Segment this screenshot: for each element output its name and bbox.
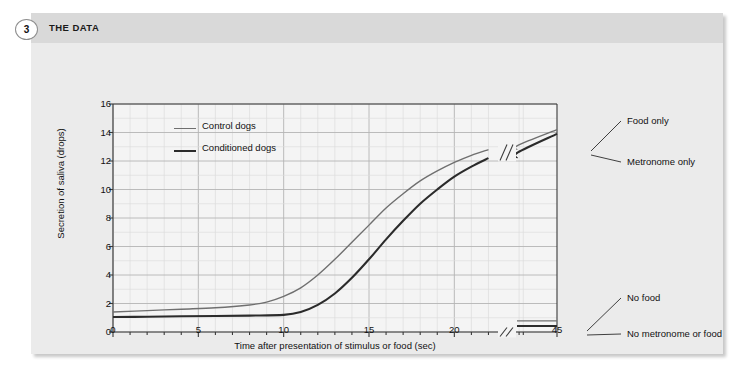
x-tick-label: 5 [183, 324, 213, 335]
x-tick-label: 20 [439, 324, 469, 335]
y-axis-title: Secretion of saliva (drops) [55, 89, 66, 279]
legend-item-conditioned-dogs: Conditioned dogs [174, 141, 344, 163]
annotation-no-metronome-or-food: No metronome or food [627, 328, 722, 339]
x-tick-label: 45 [542, 324, 572, 335]
legend-label-control: Control dogs [202, 120, 256, 131]
figure-panel: 3 THE DATA 0246810121416 0510152045 Secr… [31, 13, 723, 354]
y-tick-label: 4 [87, 269, 111, 280]
legend-item-control-dogs: Control dogs [174, 119, 344, 141]
panel-title: THE DATA [49, 22, 99, 33]
line-chart-plot [31, 43, 723, 354]
chart-legend: Control dogs Conditioned dogs [174, 119, 344, 163]
y-tick-label: 14 [87, 127, 111, 138]
annotation-leaders [587, 121, 621, 335]
step-number-badge: 3 [15, 19, 38, 40]
y-axis-tick-labels: 0246810121416 [87, 43, 111, 354]
leader-line-1 [591, 155, 621, 162]
leader-line-0 [591, 121, 621, 151]
y-tick-label: 2 [87, 298, 111, 309]
y-tick-label: 16 [87, 98, 111, 109]
x-axis-tick-labels: 0510152045 [31, 324, 723, 340]
y-tick-label: 12 [87, 155, 111, 166]
x-axis-title: Time after presentation of stimulus or f… [113, 340, 557, 351]
annotation-food-only: Food only [627, 115, 669, 126]
legend-line-icon-control [174, 128, 196, 129]
chart-figure: 0246810121416 0510152045 Secretion of sa… [31, 43, 723, 354]
y-tick-label: 6 [87, 241, 111, 252]
legend-line-icon-conditioned [174, 150, 196, 152]
panel-body: 0246810121416 0510152045 Secretion of sa… [31, 43, 723, 354]
x-tick-label: 0 [98, 324, 128, 335]
x-tick-label: 15 [354, 324, 384, 335]
y-tick-label: 10 [87, 184, 111, 195]
panel-header: 3 THE DATA [31, 13, 723, 43]
annotation-metronome-only: Metronome only [627, 156, 695, 167]
annotation-no-food: No food [627, 292, 660, 303]
y-tick-label: 8 [87, 212, 111, 223]
x-tick-label: 10 [269, 324, 299, 335]
legend-label-conditioned: Conditioned dogs [202, 142, 276, 153]
